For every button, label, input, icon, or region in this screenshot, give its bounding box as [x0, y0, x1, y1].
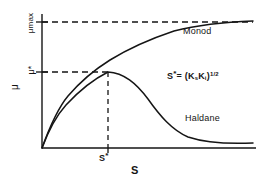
s-star-asterisk: *	[105, 151, 108, 160]
s-star-formula-annotation: S*= (KsKi)1/2	[167, 70, 219, 82]
formula-exponent: 1/2	[210, 71, 219, 77]
y-axis-label-text: μ	[10, 84, 20, 90]
formula-ks: K	[188, 71, 195, 81]
monod-curve-label: Monod	[183, 27, 212, 36]
x-axis-label: S	[131, 165, 139, 176]
y-axis-label: μ	[2, 74, 28, 100]
monod-curve	[42, 21, 253, 148]
x-tick-label-s-star: S*	[99, 152, 109, 163]
monod-label-text: Monod	[183, 26, 212, 36]
haldane-curve	[42, 72, 253, 148]
haldane-curve-label: Haldane	[185, 114, 220, 123]
haldane-label-text: Haldane	[185, 113, 220, 123]
kinetics-figure: μmax μ* μ S* S Monod Haldane S*= (KsKi)1…	[0, 0, 265, 181]
x-axis-label-text: S	[131, 164, 139, 176]
formula-equals: = (	[177, 71, 188, 81]
mu-max-text: μmax	[27, 13, 35, 34]
y-tick-label-mu-max: μmax	[14, 6, 48, 40]
formula-ki: K	[198, 71, 205, 81]
